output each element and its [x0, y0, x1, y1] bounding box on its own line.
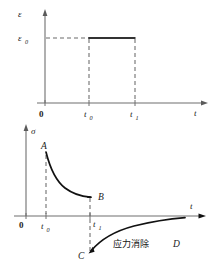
- stress-removal-annotation: 应力消除: [113, 238, 149, 249]
- stress-panel: σ 0 t 0 t 1 t A B C D 应力消除: [14, 124, 206, 261]
- stress-x-axis-label: t: [190, 201, 193, 211]
- stress-point-label-b: B: [98, 192, 104, 202]
- strain-eps0-label-sub: 0: [25, 38, 29, 45]
- strain-panel: ε ε 0 0 t 0 t 1 t: [18, 9, 208, 121]
- stress-relaxation-figure: ε ε 0 0 t 0 t 1 t: [0, 0, 217, 264]
- strain-y-axis-label: ε: [18, 9, 22, 19]
- stress-origin-label: 0: [19, 220, 24, 230]
- stress-t0-label-sub: 0: [47, 226, 51, 233]
- strain-t0-label-sub: 0: [90, 114, 94, 121]
- figure-canvas: ε ε 0 0 t 0 t 1 t: [0, 0, 217, 264]
- stress-y-axis-label: σ: [31, 126, 36, 136]
- strain-y-axis-arrow-icon: [43, 9, 48, 16]
- stress-t1-label-base: t: [93, 219, 96, 229]
- strain-t1-label-base: t: [130, 109, 133, 119]
- strain-t1-label-sub: 1: [136, 114, 139, 121]
- stress-t0-label-base: t: [41, 221, 44, 231]
- strain-x-axis-label: t: [194, 108, 197, 118]
- strain-t0-label-base: t: [84, 109, 87, 119]
- stress-t1-label-sub: 1: [99, 224, 102, 231]
- stress-point-label-a: A: [40, 141, 47, 151]
- strain-origin-label: 0: [39, 109, 44, 119]
- stress-y-axis-arrow-icon: [24, 124, 29, 131]
- stress-point-label-d: D: [172, 239, 180, 249]
- strain-eps0-label-base: ε: [18, 33, 22, 43]
- stress-point-label-c: C: [78, 251, 85, 261]
- strain-x-axis-arrow-icon: [201, 101, 208, 106]
- stress-relaxation-curve: [46, 152, 90, 197]
- stress-x-axis-arrow-icon: [199, 213, 207, 218]
